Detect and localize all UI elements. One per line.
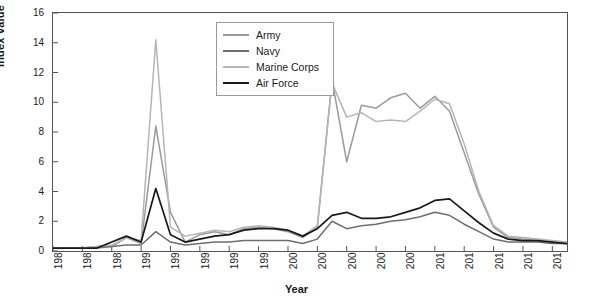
y-tick-label: 16 [0, 8, 44, 18]
legend-swatch-icon [223, 66, 249, 68]
y-tick-label: 12 [0, 68, 44, 78]
legend-swatch-icon [223, 82, 249, 84]
x-axis-title: Year [0, 283, 593, 295]
y-tick-label: 14 [0, 38, 44, 48]
legend-swatch-icon [223, 50, 249, 52]
legend-swatch-icon [223, 34, 249, 36]
series-line-army [53, 80, 567, 248]
legend: ArmyNavyMarine CorpsAir Force [216, 22, 334, 96]
y-tick-label: 0 [0, 246, 44, 256]
chart-container: Index value Year 0246810121416 198419861… [0, 0, 593, 302]
y-tick-label: 8 [0, 127, 44, 137]
legend-item: Air Force [223, 75, 327, 91]
legend-label: Army [256, 29, 281, 41]
legend-label: Air Force [256, 77, 299, 89]
legend-item: Navy [223, 43, 327, 59]
legend-label: Navy [256, 45, 280, 57]
y-tick-label: 2 [0, 216, 44, 226]
legend-item: Marine Corps [223, 59, 327, 75]
y-tick-label: 6 [0, 157, 44, 167]
y-tick-label: 4 [0, 187, 44, 197]
legend-label: Marine Corps [256, 61, 319, 73]
y-tick-label: 10 [0, 97, 44, 107]
legend-item: Army [223, 27, 327, 43]
